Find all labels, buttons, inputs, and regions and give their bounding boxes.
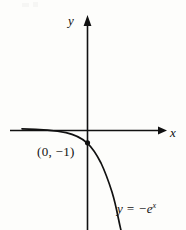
intercept-point-label: (0, −1) — [37, 145, 75, 158]
y-axis-arrowhead — [84, 15, 92, 26]
equation-exponent: x — [153, 201, 157, 210]
figure-container: y x (0, −1) y = −ex — [0, 0, 186, 230]
graph-canvas — [0, 0, 186, 230]
equation-base: y = −e — [117, 201, 153, 216]
x-axis-arrowhead — [158, 127, 167, 135]
y-axis-label: y — [68, 14, 74, 27]
x-axis-label: x — [170, 126, 176, 139]
curve-equation-label: y = −ex — [117, 202, 156, 215]
intercept-point-marker — [85, 140, 90, 145]
